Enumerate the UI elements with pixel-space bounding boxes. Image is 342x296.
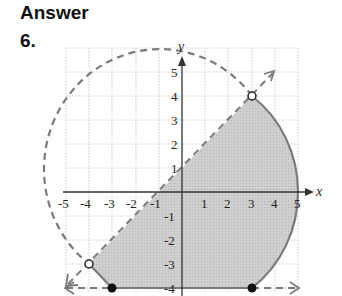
- svg-text:-4: -4: [164, 281, 175, 296]
- open-point: [248, 92, 256, 100]
- svg-text:-4: -4: [80, 196, 91, 211]
- svg-text:1: 1: [171, 161, 178, 176]
- y-axis-label: y: [176, 39, 185, 54]
- svg-text:-3: -3: [164, 257, 175, 272]
- svg-text:5: 5: [294, 196, 301, 211]
- svg-text:-2: -2: [164, 233, 175, 248]
- svg-text:5: 5: [171, 65, 178, 80]
- svg-text:4: 4: [171, 89, 178, 104]
- graph: x y -5 -4 -3 -2 -1 1 2 3 4 5 5 4 3 2 1 -…: [0, 0, 342, 296]
- svg-text:3: 3: [171, 113, 178, 128]
- svg-text:-1: -1: [150, 196, 161, 211]
- svg-text:-2: -2: [126, 196, 137, 211]
- closed-point: [248, 284, 257, 293]
- open-point: [85, 260, 93, 268]
- svg-text:2: 2: [224, 196, 231, 211]
- svg-text:-1: -1: [164, 209, 175, 224]
- svg-text:4: 4: [271, 196, 278, 211]
- closed-point: [108, 284, 117, 293]
- x-axis-arrow-icon: [305, 188, 314, 196]
- x-axis-label: x: [315, 184, 323, 199]
- svg-text:-5: -5: [58, 196, 69, 211]
- svg-text:1: 1: [201, 196, 208, 211]
- svg-text:-3: -3: [104, 196, 115, 211]
- svg-text:3: 3: [248, 196, 255, 211]
- svg-text:2: 2: [171, 137, 178, 152]
- y-axis-arrow-icon: [178, 56, 186, 66]
